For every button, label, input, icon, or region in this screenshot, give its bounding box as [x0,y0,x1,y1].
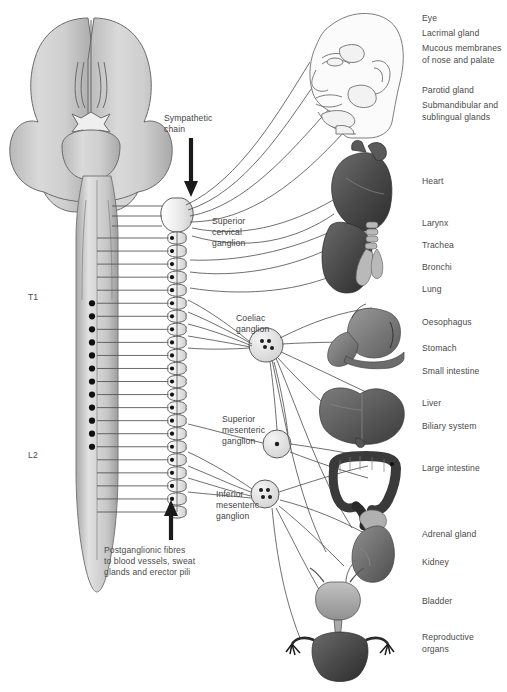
label-sublingual-glands: sublingual glands [422,112,490,123]
chain-ganglion-cell [170,419,174,423]
lateral-horn-cell [89,313,95,319]
chain-ganglion-cell [170,236,174,240]
inferior-mesenteric-ganglion-label-line3: ganglion [216,511,259,522]
chain-ganglion-cell [170,445,174,449]
label-large-intestine: Large intestine [422,463,480,474]
chain-ganglion-cell [170,327,174,331]
label-mucous-membranes: Mucous membranes [422,43,501,54]
lateral-horn-cell [89,391,95,397]
coeliac-ganglion-label-line1: Coeliac [236,313,269,324]
label-parotid-gland: Parotid gland [422,85,474,96]
organ-kidney-adrenal [346,510,394,582]
lateral-horn-cell [89,300,95,306]
label-trachea: Trachea [422,240,454,251]
sympathetic-chain-label-line1: Sympathetic [164,113,212,124]
chain-ganglion-cell [170,288,174,292]
inferior-mesenteric-ganglion-label-line1: Inferior [216,489,259,500]
organ-stomach [328,304,404,369]
chain-ganglion-cell [170,392,174,396]
label-oesophagus: Oesophagus [422,317,472,328]
superior-mesenteric-ganglion-label-line1: Superior [222,414,265,425]
arrow-sympathetic-chain [184,138,198,197]
lateral-horn-cell [89,405,95,411]
chain-ganglion-cell [170,262,174,266]
label-reproductive-organs: Reproductive [422,632,474,643]
superior-mesenteric-ganglion-label-line3: ganglion [222,436,265,447]
label-kidney: Kidney [422,557,449,568]
coeliac-ganglion-label-line2: ganglion [236,324,269,335]
superior-mesenteric-ganglion-label: Superiormesentericganglion [222,414,265,448]
chain-ganglion-cell [170,432,174,436]
inferior-mesenteric-ganglion-label: Inferiormesentericganglion [216,489,259,523]
lateral-horn-cell [89,431,95,437]
chain-ganglion-cell [170,353,174,357]
postganglionic-fibres-caption-line2: to blood vessels, sweat [104,556,195,567]
label-adrenal-gland: Adrenal gland [422,529,476,540]
chain-ganglion-cell [170,497,174,501]
chain-ganglion-cell [170,301,174,305]
chain-ganglion-cell [170,379,174,383]
chain-ganglion-cell [170,314,174,318]
organ-lung-trachea [322,222,383,293]
label-heart: Heart [422,176,444,187]
chain-ganglion-cell [170,249,174,253]
figure-canvas: T1L2 SympatheticchainSuperiorcervicalgan… [0,0,507,692]
label-mucous-membranes-2: of nose and palate [422,55,495,66]
label-stomach: Stomach [422,343,457,354]
sympathetic-chain-label-line2: chain [164,124,212,135]
label-reproductive-organs-2: organs [422,644,449,655]
organ-heart [332,140,392,230]
superior-mesenteric-ganglion-label-line2: mesenteric [222,425,265,436]
inferior-mesenteric-ganglion-label-line2: mesenteric [216,500,259,511]
label-larynx: Larynx [422,218,448,229]
sympathetic-chain-label: Sympatheticchain [164,113,212,135]
lateral-horn-cell [89,378,95,384]
organ-reproductive [286,632,394,682]
lateral-horn-cell [89,444,95,450]
superior-cervical-ganglion-label-line3: ganglion [212,238,245,249]
sympathetic-chain-illustration [161,198,193,518]
chain-ganglion-cell [170,471,174,475]
label-lacrimal-gland: Lacrimal gland [422,28,479,39]
superior-cervical-ganglion-label: Superiorcervicalganglion [212,216,245,250]
lateral-horn-cell [89,365,95,371]
superior-cervical-ganglion-label-line1: Superior [212,216,245,227]
lateral-horn-cell [89,352,95,358]
label-eye: Eye [422,13,437,24]
coeliac-ganglion-label: Coeliacganglion [236,313,269,335]
lateral-horn-cell [89,339,95,345]
chain-ganglion-cell [170,340,174,344]
label-bronchi: Bronchi [422,262,452,273]
label-small-intestine: Small intestine [422,366,479,377]
postganglionic-fibres-caption: Postganglionic fibresto blood vessels, s… [104,545,195,579]
chain-ganglion-cell [170,406,174,410]
chain-ganglion-cell [170,484,174,488]
organ-head-face [310,13,403,138]
label-liver: Liver [422,398,441,409]
spinal-level-l2: L2 [28,450,38,461]
chain-ganglion-cell [170,366,174,370]
label-biliary-system: Biliary system [422,421,476,432]
postganglionic-fibres-caption-line3: glands and erector pili [104,567,195,578]
organ-liver [320,388,405,448]
chain-ganglion-cell [170,275,174,279]
postganglionic-fibres-caption-line1: Postganglionic fibres [104,545,195,556]
spinal-level-t1: T1 [28,292,38,303]
chain-ganglion-cell [170,458,174,462]
label-lung: Lung [422,284,442,295]
organ-bladder [310,568,364,640]
label-bladder: Bladder [422,596,452,607]
lateral-horn-cell [89,418,95,424]
label-submandibular: Submandibular and [422,100,498,111]
superior-cervical-ganglion-label-line2: cervical [212,227,245,238]
lateral-horn-cell [89,326,95,332]
